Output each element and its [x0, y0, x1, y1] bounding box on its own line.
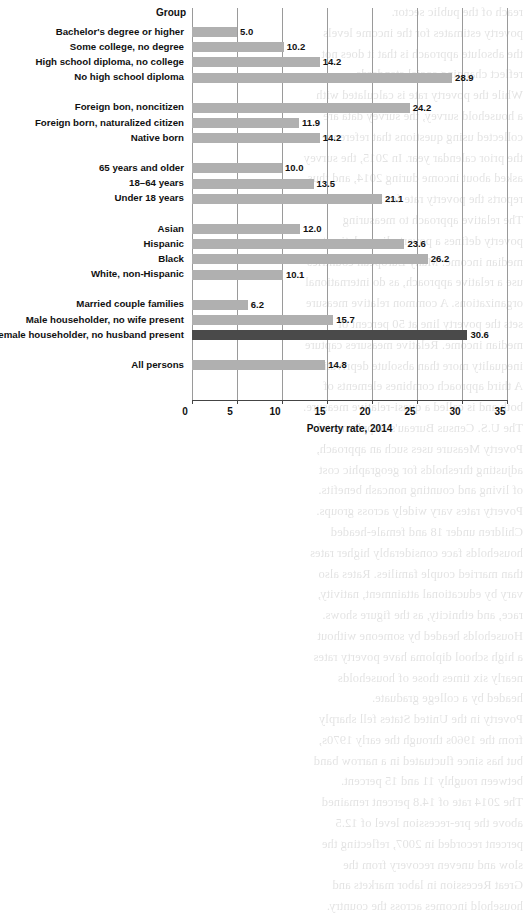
bar: [192, 27, 237, 37]
category-label: Female householder, no husband present: [0, 330, 184, 340]
x-axis-tick: [327, 400, 328, 404]
bar: [192, 300, 248, 310]
gridline: [417, 8, 418, 400]
bleed-line: than married couple families. Rates also: [10, 564, 523, 585]
bar: [192, 179, 314, 189]
bar-value-label: 24.2: [413, 103, 432, 113]
bleed-line: from the 1960s through the early 1970s,: [18, 730, 523, 751]
bar: [192, 194, 382, 204]
x-axis-tick-label: 20: [352, 406, 378, 417]
bleed-line: but has since fluctuated in a narrow ban…: [10, 751, 523, 772]
bleed-line: percent recorded in 2007, reflecting the: [4, 834, 523, 855]
bleed-line: a high school diploma have poverty rates: [4, 647, 523, 668]
category-label: 18–64 years: [129, 178, 184, 188]
bar-value-label: 13.5: [317, 179, 336, 189]
gridline: [462, 8, 463, 400]
x-axis-title: Poverty rate, 2014: [192, 423, 507, 434]
bleed-line: Children under 18 and female-headed: [4, 522, 523, 543]
x-axis-tick: [372, 400, 373, 404]
x-axis-tick: [417, 400, 418, 404]
x-axis-tick: [237, 400, 238, 404]
category-label: High school diploma, no college: [35, 57, 184, 67]
category-label: 65 years and older: [99, 163, 184, 173]
bar-value-label: 10.1: [286, 270, 305, 280]
category-label: Asian: [158, 224, 184, 234]
bar-value-label: 15.7: [336, 315, 355, 325]
gridline: [507, 8, 508, 400]
category-label: Bachelor's degree or higher: [56, 27, 184, 37]
bar-value-label: 14.2: [323, 133, 342, 143]
bar-value-label: 10.2: [287, 42, 306, 52]
bleed-line: slow and uneven recovery from the: [18, 855, 523, 876]
bleed-line: The 2014 rate of 14.8 percent remained: [18, 792, 523, 813]
bleed-line: between roughly 11 and 15 percent.: [4, 771, 523, 792]
bar-value-label: 5.0: [240, 27, 253, 37]
x-axis-tick: [507, 400, 508, 404]
bar: [192, 73, 452, 83]
bleed-line: above the pre-recession level of 12.5: [10, 813, 523, 834]
x-axis-tick: [282, 400, 283, 404]
bar: [192, 163, 282, 173]
bar-value-label: 12.0: [303, 224, 322, 234]
category-label: No high school diploma: [74, 72, 184, 82]
bleed-line: Households headed by someone without: [10, 626, 523, 647]
gridline: [372, 8, 373, 400]
category-label: White, non-Hispanic: [91, 269, 184, 279]
bar: [192, 360, 325, 370]
x-axis-tick-label: 5: [217, 406, 243, 417]
bar-value-label: 21.1: [385, 194, 404, 204]
bar-value-label: 28.9: [455, 73, 474, 83]
bar: [192, 118, 299, 128]
category-label: Foreign born, naturalized citizen: [35, 118, 184, 128]
bar-value-label: 11.9: [302, 118, 320, 128]
bar: [192, 330, 467, 340]
bar-value-label: 14.2: [323, 57, 342, 67]
bleed-line: nearly six times those of households: [18, 668, 523, 689]
category-label: Married couple families: [76, 299, 184, 309]
bar-value-label: 30.6: [470, 330, 489, 340]
category-label: Under 18 years: [115, 193, 184, 203]
category-label: Hispanic: [144, 239, 184, 249]
bar-value-label: 23.6: [407, 239, 426, 249]
plot-area: [192, 8, 507, 400]
category-label: All persons: [131, 360, 184, 370]
x-axis-tick: [192, 400, 193, 404]
category-label: Native born: [131, 133, 184, 143]
bar-value-label: 10.0: [285, 163, 304, 173]
bar: [192, 57, 320, 67]
bar: [192, 103, 410, 113]
bar: [192, 224, 300, 234]
bar-value-label: 14.8: [328, 360, 347, 370]
bleed-line: Poverty rates vary widely across groups.: [10, 501, 523, 522]
bleed-line: adjusting thresholds for geographic cost: [4, 460, 523, 481]
x-axis-tick-label: 15: [307, 406, 333, 417]
x-axis-tick-label: 30: [442, 406, 468, 417]
bleed-line: headed by a college graduate.: [10, 688, 523, 709]
bar: [192, 315, 333, 325]
x-axis-tick-label: 0: [172, 406, 198, 417]
bar: [192, 254, 428, 264]
bar: [192, 133, 320, 143]
x-axis-tick: [462, 400, 463, 404]
bleed-line: vary by educational attainment, nativity…: [4, 584, 523, 605]
x-axis-tick-label: 35: [487, 406, 513, 417]
category-label: Black: [158, 254, 184, 264]
x-axis-tick-label: 10: [262, 406, 288, 417]
bleed-line: race, and ethnicity, as the figure shows…: [18, 605, 523, 626]
category-label: Male householder, no wife present: [26, 315, 184, 325]
category-label: Some college, no degree: [70, 42, 184, 52]
bar: [192, 270, 283, 280]
bleed-line: households face considerably higher rate…: [18, 543, 523, 564]
bar: [192, 42, 284, 52]
category-label: Foreign bon, noncitizen: [75, 102, 184, 112]
bleed-line: household incomes across the country.: [4, 896, 523, 916]
x-axis-tick-label: 25: [397, 406, 423, 417]
bleed-line: Poverty in the United States fell sharpl…: [4, 709, 523, 730]
bar: [192, 239, 404, 249]
bar-value-label: 6.2: [251, 300, 264, 310]
category-label-column: Bachelor's degree or higherSome college,…: [0, 0, 188, 458]
bar-value-label: 26.2: [431, 254, 450, 264]
bleed-line: of living and counting noncash benefits.: [18, 480, 523, 501]
bleed-line: Great Recession in labor markets and: [10, 875, 523, 896]
